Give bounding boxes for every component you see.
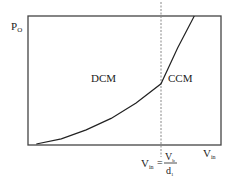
svg-text:Vin: Vin — [141, 157, 154, 170]
svg-text:=: = — [157, 157, 163, 168]
region-label-ccm: CCM — [168, 72, 193, 84]
y-axis-label: PO — [11, 20, 22, 34]
x-axis-label: Vin — [203, 147, 216, 160]
region-label-dcm: DCM — [91, 72, 116, 84]
diagram: PO Vin DCM CCM Vin = Vb d1 — [0, 0, 234, 189]
boundary-equation: Vin = Vb d1 — [141, 151, 177, 177]
svg-text:Vb: Vb — [165, 151, 175, 163]
svg-text:d1: d1 — [166, 165, 174, 177]
